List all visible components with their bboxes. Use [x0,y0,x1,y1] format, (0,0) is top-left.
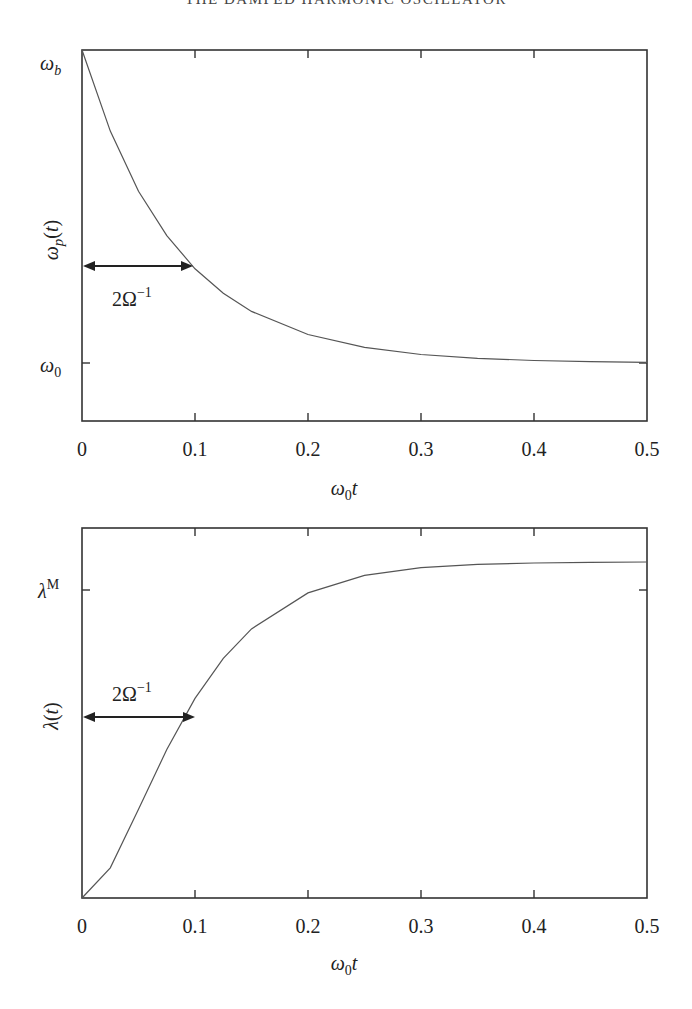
bottom-x-tick-labels: 00.10.20.30.40.5 [77,915,660,937]
x-tick-label: 0.4 [522,438,547,460]
x-tick-label: 0.2 [296,915,321,937]
x-tick-label: 0 [77,438,87,460]
bottom-annotation-arrow [83,712,195,722]
x-tick-label: 0.4 [522,915,547,937]
figure: 2Ω−1 ωb ω0 ωp(t) 00.10.20.30.40.5 ω0t 2Ω… [0,0,692,1009]
top-ylabel: ωp(t) [40,220,66,261]
x-tick-label: 0.3 [409,915,434,937]
top-plot: 2Ω−1 ωb ω0 ωp(t) 00.10.20.30.40.5 ω0t [40,50,660,503]
x-tick-label: 0 [77,915,87,937]
top-xlabel: ω0t [331,477,358,503]
x-tick-label: 0.1 [183,915,208,937]
arrow-right-head [183,712,195,722]
bottom-x-ticks [195,528,534,898]
top-annotation-arrow [83,261,193,271]
bottom-xlabel: ω0t [331,952,358,978]
bottom-annotation-label: 2Ω−1 [112,680,152,705]
omega-p-curve [82,50,647,362]
bottom-ytick-lambda-M: λM [37,577,60,602]
bottom-plot-frame [82,528,647,898]
arrow-left-head [83,712,95,722]
x-tick-label: 0.2 [296,438,321,460]
bottom-plot: 2Ω−1 λM λ(t) 00.10.20.30.40.5 ω0t [37,528,660,978]
bottom-ylabel: λ(t) [40,702,63,731]
top-annotation-label: 2Ω−1 [112,285,152,310]
x-tick-label: 0.1 [183,438,208,460]
top-ytick-omega-0: ω0 [40,354,61,380]
top-ytick-omega-b: ωb [40,52,61,78]
lambda-curve [82,562,647,898]
top-x-ticks [195,50,534,421]
x-tick-label: 0.3 [409,438,434,460]
arrow-left-head [83,261,95,271]
x-tick-label: 0.5 [635,438,660,460]
arrow-right-head [181,261,193,271]
x-tick-label: 0.5 [635,915,660,937]
top-x-tick-labels: 00.10.20.30.40.5 [77,438,660,460]
